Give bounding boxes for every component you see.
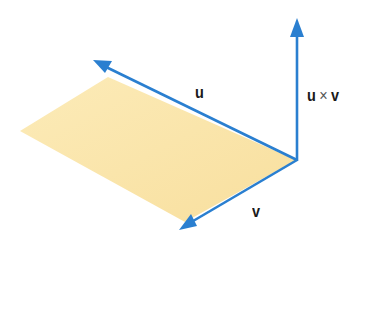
cross-product-diagram [0, 0, 371, 312]
arrowhead-cross-icon [290, 18, 304, 37]
label-u: u [195, 83, 204, 103]
cross-operator: × [316, 86, 331, 105]
vector-u-cross-v [290, 18, 304, 161]
arrowhead-u-icon [93, 60, 112, 73]
label-u-cross-v: u×v [307, 86, 339, 106]
parallelogram-plane [20, 77, 296, 222]
label-v: v [252, 202, 260, 222]
label-cross-right: v [331, 86, 339, 105]
label-cross-left: u [307, 86, 316, 105]
